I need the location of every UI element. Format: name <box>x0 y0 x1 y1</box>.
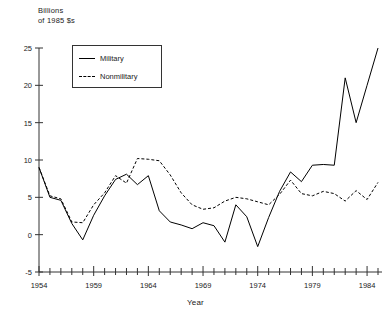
y-axis-tick-label: 25 <box>8 44 32 53</box>
legend-label-nonmilitary: Nonmilitary <box>100 72 138 81</box>
x-axis-tick-label: 1974 <box>249 281 266 290</box>
y-axis-tick-label: 10 <box>8 156 32 165</box>
x-axis-tick-label: 1969 <box>195 281 212 290</box>
x-axis-tick-label: 1964 <box>140 281 157 290</box>
y-axis-tick-label: 0 <box>8 230 32 239</box>
legend-line-dashed-icon <box>79 76 95 77</box>
legend: Military Nonmilitary <box>72 45 162 88</box>
series-line-nonmilitary <box>39 159 378 223</box>
legend-line-solid-icon <box>79 58 95 59</box>
legend-entry-nonmilitary: Nonmilitary <box>79 70 138 82</box>
x-axis-tick-label: 1984 <box>359 281 376 290</box>
x-axis-title: Year <box>0 298 391 308</box>
x-axis-tick-label: 1954 <box>31 281 48 290</box>
legend-entry-military: Military <box>79 52 124 64</box>
y-axis-tick-label: 20 <box>8 81 32 90</box>
plot-area <box>0 0 391 324</box>
chart-figure: Billions of 1985 $s -5051015202519541959… <box>0 0 391 324</box>
legend-label-military: Military <box>100 54 124 63</box>
y-axis-tick-label: 15 <box>8 118 32 127</box>
x-axis-tick-label: 1979 <box>304 281 321 290</box>
y-axis-tick-label: -5 <box>8 268 32 277</box>
y-axis-unit-label: Billions of 1985 $s <box>38 6 75 25</box>
x-axis-tick-label: 1959 <box>85 281 102 290</box>
y-axis-tick-label: 5 <box>8 193 32 202</box>
